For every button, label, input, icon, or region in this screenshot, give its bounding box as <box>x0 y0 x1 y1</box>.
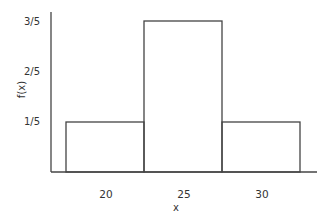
plot-area <box>0 0 328 224</box>
y-tick-1-5: 1/5 <box>10 116 40 127</box>
bar-30 <box>222 122 300 172</box>
x-axis-title: x <box>166 202 186 213</box>
x-tick-20: 20 <box>91 188 121 200</box>
probability-histogram: 3/5 2/5 1/5 f(x) 20 25 30 x <box>0 0 328 224</box>
bar-25 <box>144 21 222 172</box>
y-tick-3-5: 3/5 <box>10 16 40 27</box>
y-axis-title: f(x) <box>16 75 27 105</box>
x-tick-30: 30 <box>247 188 277 200</box>
x-tick-25: 25 <box>169 188 199 200</box>
bar-20 <box>66 122 144 172</box>
